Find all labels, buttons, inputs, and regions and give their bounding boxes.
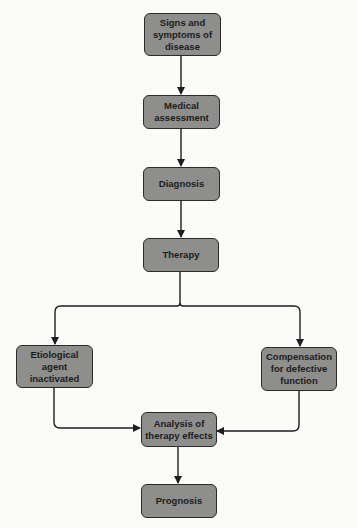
node-prognosis: Prognosis xyxy=(141,484,217,518)
node-signs-and-symptoms: Signs and symptoms of disease xyxy=(144,13,221,56)
node-analysis-of-therapy-effects: Analysis of therapy effects xyxy=(141,412,217,447)
node-diagnosis: Diagnosis xyxy=(143,167,220,201)
node-etiological-agent-inactivated: Etiological agent inactivated xyxy=(16,345,93,388)
node-compensation: Compensation for defective function xyxy=(261,347,337,391)
node-medical-assessment: Medical assessment xyxy=(143,95,220,129)
node-therapy: Therapy xyxy=(143,238,219,272)
